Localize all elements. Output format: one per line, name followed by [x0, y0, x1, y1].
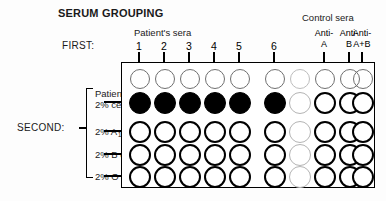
well-row-entry-col-5[interactable] [230, 69, 250, 89]
well-row-a1-cells-col-anti-ab[interactable] [352, 121, 374, 143]
well-row-a1-cells-col-5[interactable] [229, 121, 251, 143]
well-row-o-cells-col-3[interactable] [179, 166, 201, 188]
well-row-a1-cells-col-6[interactable] [264, 121, 286, 143]
well-row-patient-cells-col-5[interactable] [229, 92, 251, 114]
well-row-entry-col-2[interactable] [155, 69, 175, 89]
well-row-o-cells-col-2[interactable] [154, 166, 176, 188]
well-row-entry-col-1[interactable] [130, 69, 150, 89]
patient-sera-group-label: Patient's sera [134, 28, 191, 38]
well-row-a1-cells-col-4[interactable] [204, 121, 226, 143]
well-row-b-cells-col-blank[interactable] [289, 144, 311, 166]
well-row-a1-cells-col-2[interactable] [154, 121, 176, 143]
column-header-col-anti-ab: Anti-A+B [345, 28, 379, 50]
column-header-col-1: 1 [132, 40, 146, 52]
second-step-connector [79, 127, 87, 129]
well-row-o-cells-col-6[interactable] [264, 166, 286, 188]
well-row-a1-cells-col-3[interactable] [179, 121, 201, 143]
well-row-patient-cells-col-blank[interactable] [289, 92, 311, 114]
column-header-col-4: 4 [207, 40, 221, 52]
well-row-entry-col-4[interactable] [205, 69, 225, 89]
well-row-a1-cells-col-blank[interactable] [289, 121, 311, 143]
well-row-o-cells-col-anti-a[interactable] [314, 166, 336, 188]
column-header-line2: A+B [345, 39, 379, 50]
well-row-b-cells-col-1[interactable] [129, 144, 151, 166]
well-row-o-cells-col-5[interactable] [229, 166, 251, 188]
column-header-col-2: 2 [157, 40, 171, 52]
well-row-b-cells-col-3[interactable] [179, 144, 201, 166]
well-row-patient-cells-col-6[interactable] [264, 92, 286, 114]
well-row-patient-cells-col-anti-a[interactable] [314, 92, 336, 114]
well-row-b-cells-col-5[interactable] [229, 144, 251, 166]
well-row-o-cells-col-anti-ab[interactable] [352, 166, 374, 188]
well-row-patient-cells-col-anti-ab[interactable] [352, 92, 374, 114]
column-header-col-3: 3 [182, 40, 196, 52]
second-step-label: SECOND: [17, 123, 65, 133]
column-header-col-5: 5 [232, 40, 246, 52]
serum-grouping-figure: SERUM GROUPING Patient's sera Control se… [0, 0, 386, 201]
well-row-b-cells-col-anti-a[interactable] [314, 144, 336, 166]
well-row-b-cells-col-anti-ab[interactable] [352, 144, 374, 166]
microplate-well-grid[interactable] [121, 62, 375, 188]
well-row-patient-cells-col-3[interactable] [179, 92, 201, 114]
well-row-a1-cells-col-anti-a[interactable] [314, 121, 336, 143]
well-row-o-cells-col-1[interactable] [129, 166, 151, 188]
well-row-b-cells-col-6[interactable] [264, 144, 286, 166]
well-row-entry-col-blank[interactable] [290, 69, 310, 89]
control-sera-group-label: Control sera [302, 13, 354, 23]
well-row-entry-col-3[interactable] [180, 69, 200, 89]
well-row-o-cells-col-4[interactable] [204, 166, 226, 188]
well-row-a1-cells-col-1[interactable] [129, 121, 151, 143]
first-step-label: FIRST: [62, 41, 94, 51]
figure-title: SERUM GROUPING [58, 8, 163, 19]
well-row-b-cells-col-4[interactable] [204, 144, 226, 166]
well-row-patient-cells-col-1[interactable] [129, 92, 151, 114]
well-row-o-cells-col-blank[interactable] [289, 166, 311, 188]
second-step-bracket [86, 88, 93, 178]
well-row-entry-col-anti-ab[interactable] [353, 69, 373, 89]
well-row-entry-col-6[interactable] [265, 69, 285, 89]
column-header-col-6: 6 [267, 40, 281, 52]
column-header-line1: Anti- [345, 28, 379, 39]
well-row-patient-cells-col-2[interactable] [154, 92, 176, 114]
well-row-entry-col-anti-a[interactable] [315, 69, 335, 89]
well-row-patient-cells-col-4[interactable] [204, 92, 226, 114]
well-row-b-cells-col-2[interactable] [154, 144, 176, 166]
